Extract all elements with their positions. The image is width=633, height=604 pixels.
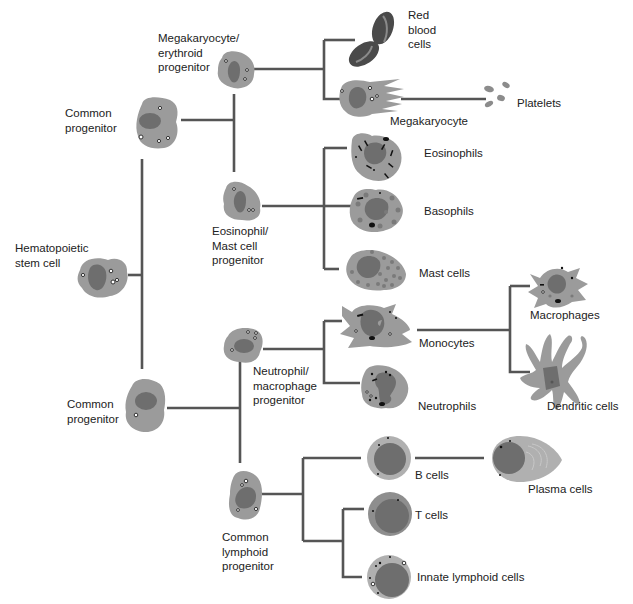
edge-rbc-mk-bracket xyxy=(324,40,343,99)
label-eosinophils: Eosinophils xyxy=(424,146,483,161)
eosinophil-icon xyxy=(351,133,401,181)
label-macrophages: Macrophages xyxy=(530,308,600,323)
t-cell-icon xyxy=(368,492,412,536)
label-t-cells: T cells xyxy=(415,508,448,523)
label-mk-ery-progenitor: Megakaryocyte/ erythroid progenitor xyxy=(158,31,239,75)
common-progenitor-lower-cell-icon xyxy=(125,379,165,432)
label-mast-cells: Mast cells xyxy=(419,266,470,281)
monocyte-icon xyxy=(340,304,412,348)
label-platelets: Platelets xyxy=(517,96,561,111)
label-neutrophils: Neutrophils xyxy=(418,399,476,414)
label-neut-mac-progenitor: Neutrophil/ macrophage progenitor xyxy=(253,364,317,408)
mast-cell-icon xyxy=(346,250,406,291)
label-eos-mast-progenitor: Eosinophil/ Mast cell progenitor xyxy=(212,224,268,268)
b-cell-icon xyxy=(367,436,411,480)
clp-cell-icon xyxy=(229,471,262,520)
neutrophil-icon xyxy=(361,365,408,408)
neut-mac-progenitor-cell-icon xyxy=(224,328,263,363)
connectors xyxy=(128,40,530,577)
label-dendritic-cells: Dendritic cells xyxy=(547,399,619,414)
label-megakaryocyte: Megakaryocyte xyxy=(390,114,468,129)
diagram-canvas xyxy=(0,0,633,604)
label-common-lymphoid-progenitor: Common lymphoid progenitor xyxy=(222,530,274,574)
label-hematopoietic-stem-cell: Hematopoietic stem cell xyxy=(15,241,89,270)
label-plasma-cells: Plasma cells xyxy=(528,482,593,497)
label-innate-lymphoid-cells: Innate lymphoid cells xyxy=(417,570,524,585)
label-common-progenitor-lower: Common progenitor xyxy=(67,397,119,426)
label-b-cells: B cells xyxy=(415,468,449,483)
innate-lymphoid-cell-icon xyxy=(367,555,411,599)
common-progenitor-upper-cell-icon xyxy=(136,97,177,148)
plasma-cell-icon xyxy=(492,436,562,482)
edge-mac-dc-bracket xyxy=(510,286,530,372)
label-monocytes: Monocytes xyxy=(419,336,475,351)
label-common-progenitor-upper: Common progenitor xyxy=(65,106,117,135)
label-red-blood-cells: Red blood cells xyxy=(408,8,436,52)
platelets-icon xyxy=(483,81,510,109)
label-basophils: Basophils xyxy=(424,204,474,219)
eos-mast-progenitor-cell-icon xyxy=(223,182,260,221)
basophil-icon xyxy=(350,189,403,232)
megakaryocyte-icon xyxy=(339,79,404,117)
macrophage-icon xyxy=(528,267,588,308)
edge-t-ilc-vert xyxy=(343,509,362,577)
hematopoiesis-diagram: Hematopoietic stem cell Common progenito… xyxy=(0,0,633,604)
